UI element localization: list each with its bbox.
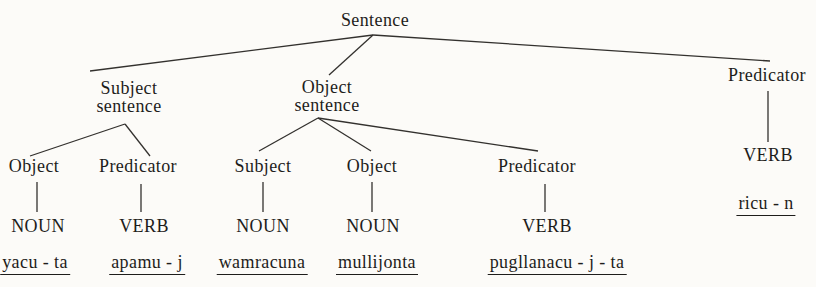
leaf-word-wamracuna: wamracuna: [217, 253, 308, 275]
diagram-stage: Sentence Subject sentence Object sentenc…: [0, 0, 816, 287]
node-os-predicator-pos: VERB: [522, 217, 572, 235]
leaf-word-ricu: ricu - n: [736, 194, 795, 216]
node-ss-object: Object: [9, 157, 59, 175]
node-object-sentence: Object sentence: [294, 78, 359, 114]
edge-objsent-to-subject: [259, 118, 318, 151]
node-subject-sentence-line2: sentence: [96, 97, 161, 115]
node-os-subject-pos: NOUN: [236, 217, 290, 235]
node-ss-predicator-pos: VERB: [119, 217, 169, 235]
leaf-word-apamu: apamu - j: [109, 253, 185, 275]
leaf-word-yacu: yacu - ta: [0, 253, 70, 275]
tree-edges: [0, 0, 816, 287]
node-predicator-right: Predicator: [728, 66, 806, 84]
edge-objsent-to-predicator: [318, 118, 538, 151]
node-os-object: Object: [347, 157, 397, 175]
node-object-sentence-line2: sentence: [294, 96, 359, 114]
edge-root-to-predicator: [373, 35, 770, 61]
edge-subjsent-to-predicator: [125, 124, 150, 156]
node-sentence: Sentence: [341, 11, 409, 29]
edge-root-to-object-sentence: [329, 35, 373, 75]
node-ss-object-pos: NOUN: [11, 217, 65, 235]
node-right-pos: VERB: [743, 146, 793, 164]
leaf-word-pugllanacu: pugllanacu - j - ta: [488, 253, 627, 275]
node-subject-sentence: Subject sentence: [96, 79, 161, 115]
edge-subjsent-to-object: [30, 124, 125, 156]
node-ss-predicator: Predicator: [99, 157, 177, 175]
node-os-predicator: Predicator: [498, 157, 576, 175]
node-os-object-pos: NOUN: [346, 217, 400, 235]
node-subject-sentence-line1: Subject: [96, 79, 161, 97]
edge-objsent-to-object: [318, 118, 371, 151]
node-object-sentence-line1: Object: [294, 78, 359, 96]
edge-root-to-subject-sentence: [90, 35, 373, 71]
node-os-subject: Subject: [235, 157, 292, 175]
leaf-word-mullijonta: mullijonta: [336, 253, 418, 275]
